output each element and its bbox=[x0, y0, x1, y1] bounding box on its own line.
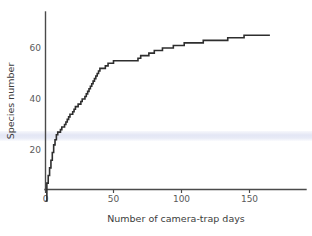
y-tick-label-40: 40 bbox=[30, 94, 42, 104]
y-tick-label-60: 60 bbox=[30, 43, 42, 53]
species-accumulation-chart: 20 40 60 0 50 100 150 Number of camera-t… bbox=[0, 0, 312, 236]
x-tick-label-0: 0 bbox=[43, 194, 49, 204]
accumulation-curve bbox=[46, 35, 270, 201]
y-tick-label-20: 20 bbox=[30, 145, 42, 155]
x-tick-label-50: 50 bbox=[108, 194, 120, 204]
x-axis-title: Number of camera-trap days bbox=[107, 213, 245, 224]
x-tick-label-100: 100 bbox=[173, 194, 190, 204]
y-axis-title: Species number bbox=[5, 63, 16, 140]
chart-canvas: 20 40 60 0 50 100 150 Number of camera-t… bbox=[0, 0, 312, 236]
x-tick-label-150: 150 bbox=[241, 194, 258, 204]
